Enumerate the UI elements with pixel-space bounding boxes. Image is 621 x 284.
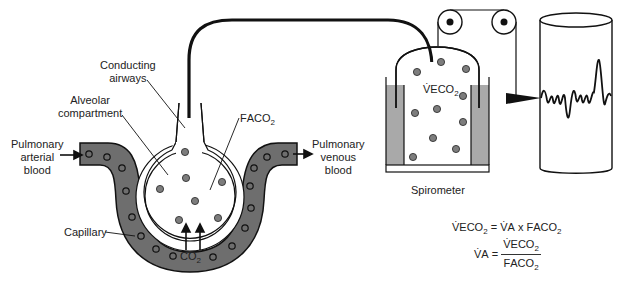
equation-veco2: V̇ECO2 = V̇A x FACO2 — [452, 221, 562, 236]
label-alveolar-compartment: Alveolar compartment — [58, 94, 122, 120]
label-faco2: FACO2 — [240, 112, 275, 129]
fraction: V̇ECO2 FACO2 — [501, 238, 541, 272]
label-veco2: V̇ECO2 — [423, 83, 459, 100]
label-co2: CO2 — [180, 250, 201, 267]
label-conducting-airways: Conducting airways — [100, 59, 156, 85]
label-pulmonary-venous-blood: Pulmonary venous blood — [312, 138, 365, 177]
spirometer — [386, 47, 489, 172]
kymograph-drum — [540, 13, 612, 173]
alveolus — [136, 103, 244, 251]
recording-pen — [506, 93, 541, 104]
label-spirometer: Spirometer — [411, 184, 465, 197]
label-pulmonary-arterial-blood: Pulmonary arterial blood — [11, 138, 64, 177]
equation-va: V̇A = V̇ECO2 FACO2 — [474, 238, 541, 272]
diagram-stage: Conducting airways Alveolar compartment … — [0, 0, 621, 284]
label-capillary: Capillary — [64, 226, 107, 239]
